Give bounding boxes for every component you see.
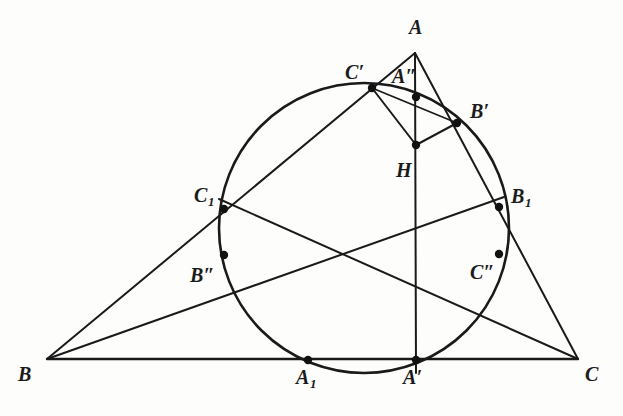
label-prime: ′ (417, 366, 422, 388)
label-base: A (409, 16, 423, 38)
side-ab (47, 53, 415, 359)
point-a-one-dot (304, 356, 312, 364)
point-label-b2prime: B″ (190, 265, 214, 285)
point-label-h: H (396, 160, 412, 180)
main-circle (219, 83, 509, 373)
label-base: B (190, 264, 204, 286)
point-a-prime-dot (412, 356, 420, 364)
label-prime: ″ (204, 264, 215, 286)
label-base: C (345, 61, 359, 83)
point-b-prime-dot (453, 119, 461, 127)
label-base: B (470, 100, 484, 122)
label-base: B (511, 185, 525, 207)
point-label-aprime: A′ (403, 367, 422, 387)
point-label-c2prime: C″ (470, 262, 494, 282)
label-subscript: 1 (208, 194, 215, 209)
point-c-one-dot (220, 205, 228, 213)
point-b-one-dot (495, 203, 503, 211)
point-a-double-prime-dot (412, 93, 420, 101)
point-label-b1: B1 (511, 186, 532, 209)
point-label-c1: C1 (194, 185, 215, 208)
label-prime: ″ (406, 65, 417, 87)
label-base: C (194, 184, 208, 206)
label-prime: ″ (484, 261, 495, 283)
point-label-a: A (409, 17, 423, 37)
label-base: B (18, 363, 32, 385)
point-label-a1: A1 (296, 367, 317, 390)
point-label-b: B (18, 364, 32, 384)
label-base: A (392, 65, 406, 87)
label-prime: ′ (359, 61, 364, 83)
cevian-b-b1 (47, 197, 504, 359)
orthocenter-h-dot (412, 141, 420, 149)
point-label-bprime: B′ (470, 101, 489, 121)
label-base: C (470, 261, 484, 283)
point-label-cprime: C′ (345, 62, 364, 82)
point-label-c: C (585, 364, 599, 384)
label-base: C (585, 363, 599, 385)
point-b-double-prime-dot (220, 251, 228, 259)
label-subscript: 1 (310, 376, 317, 391)
label-base: H (396, 159, 412, 181)
label-base: A (296, 366, 310, 388)
point-c-double-prime-dot (495, 250, 503, 258)
label-subscript: 1 (525, 195, 532, 210)
label-prime: ′ (484, 100, 489, 122)
chord-h-bprime (416, 123, 457, 145)
point-c-prime-dot (368, 84, 376, 92)
label-base: A (403, 366, 417, 388)
point-label-a2prime: A″ (392, 66, 416, 86)
geometry-figure: AC′A″B′HC1B1B″C″BA1A′C (0, 0, 623, 416)
